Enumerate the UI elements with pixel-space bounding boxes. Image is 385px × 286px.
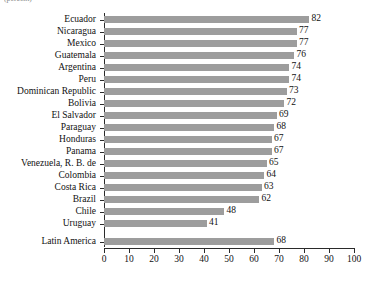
bar-row: 74 — [104, 62, 354, 74]
category-label: Venezuela, R. B. de — [21, 158, 96, 169]
bar — [104, 208, 224, 215]
category-label: Uruguay — [63, 218, 96, 229]
bar-value-label: 68 — [274, 121, 286, 132]
y-tick — [100, 140, 104, 141]
bar-value-label: 82 — [309, 13, 321, 24]
bar — [104, 28, 297, 35]
category-label: Dominican Republic — [17, 86, 96, 97]
bar-value-label: 76 — [294, 49, 306, 60]
x-tick — [329, 249, 330, 253]
category-label: Peru — [79, 74, 96, 85]
x-tick-label: 40 — [199, 254, 209, 265]
bar — [104, 88, 287, 95]
y-tick — [100, 200, 104, 201]
bar-value-label: 68 — [274, 235, 286, 246]
x-tick-label: 90 — [324, 254, 334, 265]
bar-value-label: 72 — [284, 97, 296, 108]
bar-row: 63 — [104, 182, 354, 194]
category-label: Panama — [66, 146, 96, 157]
x-tick — [229, 249, 230, 253]
bar — [104, 172, 264, 179]
bar — [104, 76, 289, 83]
bar-row: 48 — [104, 206, 354, 218]
x-tick-label: 0 — [102, 254, 107, 265]
category-label: Brazil — [73, 194, 96, 205]
x-tick-label: 70 — [274, 254, 284, 265]
bar-value-label: 65 — [267, 157, 279, 168]
bar-value-label: 73 — [287, 85, 299, 96]
plot-area: 82777776747473726968676765646362484168 — [104, 14, 354, 254]
bar-row: 72 — [104, 98, 354, 110]
bar-value-label: 69 — [277, 109, 289, 120]
bar — [104, 220, 207, 227]
bar-row: 76 — [104, 50, 354, 62]
x-tick — [354, 249, 355, 253]
chart-figure: (percent) EcuadorNicaraguaMexicoGuatemal… — [0, 0, 385, 286]
x-tick — [179, 249, 180, 253]
y-tick — [100, 92, 104, 93]
x-tick-label: 80 — [299, 254, 309, 265]
y-tick — [100, 80, 104, 81]
y-tick — [100, 188, 104, 189]
bar-row: 69 — [104, 110, 354, 122]
x-tick-label: 60 — [249, 254, 259, 265]
bar-value-label: 67 — [272, 145, 284, 156]
bar-value-label: 67 — [272, 133, 284, 144]
y-tick — [100, 56, 104, 57]
y-tick — [100, 20, 104, 21]
bar — [104, 184, 262, 191]
bar — [104, 148, 272, 155]
x-tick — [129, 249, 130, 253]
y-tick — [100, 116, 104, 117]
bar — [104, 40, 297, 47]
bar-value-label: 74 — [289, 73, 301, 84]
y-tick — [100, 104, 104, 105]
bar — [104, 64, 289, 71]
y-tick — [100, 152, 104, 153]
bar-row: 65 — [104, 158, 354, 170]
bar-row: 64 — [104, 170, 354, 182]
category-label: Chile — [75, 206, 96, 217]
bar — [104, 136, 272, 143]
x-tick-label: 20 — [149, 254, 159, 265]
category-label: Ecuador — [64, 14, 96, 25]
category-label: Costa Rica — [55, 182, 96, 193]
x-tick-label: 30 — [174, 254, 184, 265]
bar — [104, 112, 277, 119]
bar-row: 74 — [104, 74, 354, 86]
x-tick — [204, 249, 205, 253]
category-label: Honduras — [59, 134, 96, 145]
category-label: Bolivia — [68, 98, 96, 109]
category-label: Argentina — [58, 62, 96, 73]
bar-value-label: 62 — [259, 193, 271, 204]
y-tick — [100, 176, 104, 177]
x-tick — [279, 249, 280, 253]
category-axis-labels: EcuadorNicaraguaMexicoGuatemalaArgentina… — [0, 14, 100, 254]
category-label: Guatemala — [55, 50, 96, 61]
x-tick — [104, 249, 105, 253]
bar — [104, 100, 284, 107]
x-tick — [154, 249, 155, 253]
category-label: Colombia — [59, 170, 96, 181]
bar-value-label: 48 — [224, 205, 236, 216]
bar-row: 67 — [104, 134, 354, 146]
x-tick-label: 50 — [224, 254, 234, 265]
bar-value-label: 63 — [262, 181, 274, 192]
y-tick — [100, 164, 104, 165]
y-tick — [100, 68, 104, 69]
category-label: Latin America — [41, 236, 96, 247]
y-tick — [100, 224, 104, 225]
bar-row: 73 — [104, 86, 354, 98]
bar-value-label: 41 — [207, 217, 219, 228]
bar-row: 68 — [104, 236, 354, 248]
bar — [104, 196, 259, 203]
y-tick — [100, 128, 104, 129]
x-tick-label: 10 — [124, 254, 134, 265]
bar-value-label: 74 — [289, 61, 301, 72]
bar — [104, 52, 294, 59]
bar-row: 68 — [104, 122, 354, 134]
category-label: Paraguay — [61, 122, 96, 133]
unit-note: (percent) — [4, 0, 32, 3]
bar — [104, 16, 309, 23]
y-tick — [100, 242, 104, 243]
